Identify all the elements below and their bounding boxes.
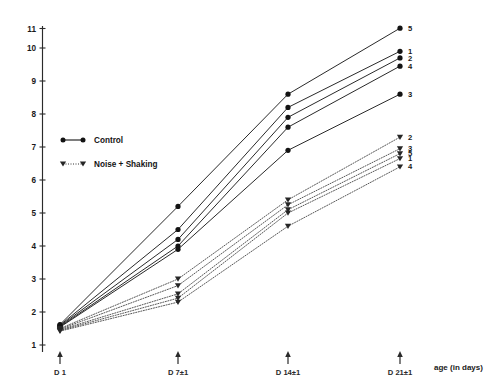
data-point-marker	[285, 148, 290, 153]
chart-figure: 11 10 9 8 7 6 5 4 3 2 1 5124323514	[0, 0, 492, 387]
y-tick-label: 5	[31, 209, 36, 218]
series-line-noise-shaking-3	[60, 149, 400, 330]
legend-entry-control: Control	[61, 136, 124, 145]
data-point-marker	[285, 202, 291, 207]
y-tick-label: 4	[31, 242, 36, 251]
legend-marker-circle-left	[61, 138, 66, 143]
x-tick-label-d7: D 7±1	[168, 368, 189, 377]
chart-legend: Control Noise + Shaking	[60, 136, 158, 169]
y-tick-label: 6	[31, 176, 36, 185]
data-point-marker	[397, 49, 402, 54]
data-point-marker	[285, 92, 290, 97]
legend-entry-noise: Noise + Shaking	[60, 160, 158, 169]
series-layer	[57, 26, 403, 334]
x-axis-markers	[57, 351, 403, 364]
y-tick-label: 3	[31, 275, 36, 284]
series-line-control-2	[60, 58, 400, 326]
data-point-marker	[175, 227, 180, 232]
y-tick-label: 10	[27, 44, 37, 53]
y-tick-label: 1	[31, 341, 36, 350]
legend-marker-triangle-left	[60, 161, 66, 166]
data-point-marker	[285, 115, 290, 120]
x-tick-arrow	[285, 351, 291, 364]
data-point-marker	[175, 204, 180, 209]
data-point-marker	[285, 105, 290, 110]
legend-marker-circle-right	[81, 138, 86, 143]
series-end-label-noise-shaking-4: 4	[408, 162, 413, 171]
chart-plot-area: 11 10 9 8 7 6 5 4 3 2 1 5124323514	[0, 0, 492, 387]
series-end-label-control-3: 3	[408, 90, 412, 99]
data-point-marker	[397, 26, 402, 31]
data-point-marker	[397, 64, 402, 69]
series-line-control-4	[60, 66, 400, 326]
series-end-label-control-5: 5	[408, 24, 413, 33]
data-point-marker	[397, 164, 403, 169]
y-tick-label: 8	[31, 110, 36, 119]
data-point-marker	[175, 277, 181, 282]
data-point-marker	[397, 55, 402, 60]
x-tick-arrow	[175, 351, 181, 364]
y-tick-label: 11	[27, 25, 36, 34]
series-line-noise-shaking-5	[60, 154, 400, 330]
data-point-marker	[285, 125, 290, 130]
data-point-marker	[397, 151, 403, 156]
series-line-control-5	[60, 28, 400, 324]
x-tick-arrow	[397, 351, 403, 364]
legend-label-control: Control	[94, 136, 123, 145]
series-end-label-control-4: 4	[408, 62, 413, 71]
data-point-marker	[397, 92, 402, 97]
data-point-marker	[285, 224, 291, 229]
series-line-control-1	[60, 51, 400, 325]
x-axis-title: age (in days)	[434, 363, 483, 372]
data-point-marker	[397, 146, 403, 151]
data-point-marker	[57, 329, 63, 334]
y-tick-label: 7	[31, 143, 36, 152]
x-tick-label-d21: D 21±1	[388, 368, 413, 377]
data-point-marker	[397, 156, 403, 161]
y-tick-label: 2	[31, 308, 36, 317]
data-point-marker	[175, 237, 180, 242]
series-end-labels: 5124323514	[408, 24, 413, 172]
y-tick-label: 9	[31, 77, 36, 86]
legend-label-noise: Noise + Shaking	[94, 160, 157, 169]
data-point-marker	[175, 283, 181, 288]
x-tick-label-d14: D 14±1	[276, 368, 301, 377]
x-tick-arrow	[57, 351, 63, 364]
x-tick-label-d1: D 1	[54, 368, 67, 377]
data-point-marker	[397, 135, 403, 140]
series-end-label-noise-shaking-2: 2	[408, 133, 412, 142]
series-line-noise-shaking-1	[60, 159, 400, 331]
data-point-marker	[175, 247, 180, 252]
series-line-noise-shaking-4	[60, 167, 400, 331]
